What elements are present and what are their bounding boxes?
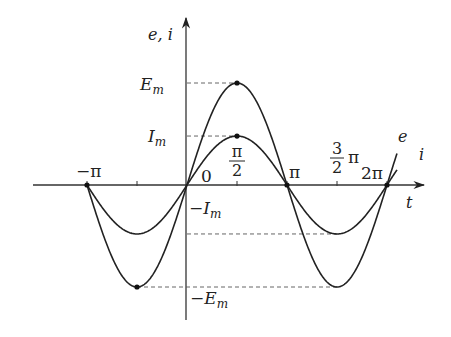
svg-text:π: π (348, 147, 359, 167)
x-axis-label: t (406, 193, 413, 212)
tick-label-neg-pi: −π (76, 161, 101, 181)
point-2pi (384, 182, 389, 187)
tick-label-pi: π (289, 162, 300, 182)
point-pi (284, 182, 289, 187)
tick-label-2pi: 2π (361, 163, 383, 183)
label-im: Im (147, 126, 166, 149)
svg-text:Im: Im (147, 126, 166, 149)
point-e-peak (234, 80, 239, 85)
y-axis-label: e, i (148, 25, 173, 44)
curve-label-i: i (419, 145, 424, 164)
point-neg-pi (84, 182, 89, 187)
svg-text:−Em: −Em (190, 288, 228, 311)
svg-text:2: 2 (332, 158, 342, 177)
svg-text:π: π (232, 142, 243, 161)
svg-text:3: 3 (332, 139, 342, 158)
point-i-peak (234, 133, 239, 138)
svg-text:Em: Em (139, 74, 164, 97)
label-neg-em: −Em (190, 288, 228, 311)
tick-label-pi-over-2: π 2 (229, 142, 245, 180)
point-e-trough (134, 284, 139, 289)
tick-label-zero: 0 (201, 166, 212, 186)
label-neg-im: −Im (189, 198, 221, 221)
curve-label-e: e (398, 127, 407, 146)
svg-text:2: 2 (232, 161, 242, 180)
tick-label-3pi-over-2: 3 2 π (330, 139, 359, 177)
sine-diagram: e, i t Em Im −Im −Em −π 0 π 2 π 3 2 π 2π… (0, 0, 451, 337)
label-em: Em (139, 74, 164, 97)
svg-text:−Im: −Im (189, 198, 221, 221)
